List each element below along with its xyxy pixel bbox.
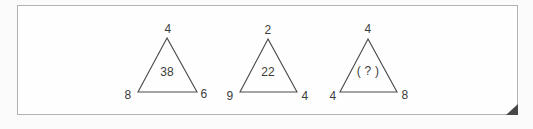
triangle-1-bottom-left-value: 8	[125, 89, 132, 101]
triangle-2-center-value: 22	[261, 66, 275, 78]
figure-panel	[17, 5, 518, 115]
triangle-2-top-value: 2	[265, 24, 272, 36]
puzzle-worksheet: 4 38 8 6 2 22 9 4 4 ( ? ) 4 8	[0, 0, 533, 129]
triangle-3-top-value: 4	[365, 23, 372, 35]
triangle-3-bottom-right-value: 8	[402, 89, 409, 101]
triangle-3-center-value: ( ? )	[357, 65, 379, 77]
triangle-2-bottom-left-value: 9	[227, 90, 234, 102]
triangle-1-top-value: 4	[165, 23, 172, 35]
triangle-3-bottom-left-value: 4	[330, 90, 337, 102]
triangle-1-center-value: 38	[160, 66, 174, 78]
triangle-2-bottom-right-value: 4	[302, 90, 309, 102]
triangle-1-bottom-right-value: 6	[201, 88, 208, 100]
